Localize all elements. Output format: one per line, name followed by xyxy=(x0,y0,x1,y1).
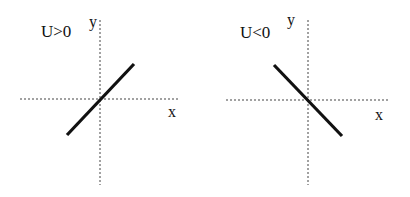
panel-negative: U<0 y x xyxy=(226,11,388,185)
x-axis-label: x xyxy=(168,103,176,120)
condition-label: U<0 xyxy=(240,23,270,42)
panel-positive: U>0 y x xyxy=(20,13,180,185)
condition-label: U>0 xyxy=(41,22,71,41)
diagram-canvas: U>0 y x U<0 y x xyxy=(0,0,410,197)
x-axis-label: x xyxy=(375,106,383,123)
y-axis-label: y xyxy=(287,11,295,29)
y-axis-label: y xyxy=(89,13,97,31)
